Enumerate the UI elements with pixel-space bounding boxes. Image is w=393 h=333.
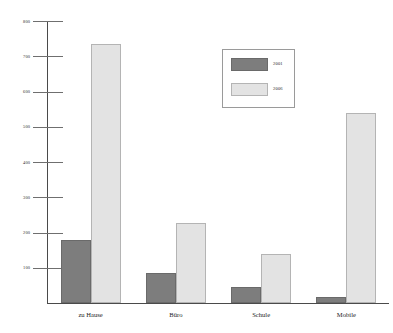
x-axis-label-schule: Schule [219, 310, 304, 319]
bar-2006-zu-hause [91, 44, 121, 303]
bar-2001-mobile [316, 297, 346, 303]
x-axis-label-mobile: Mobile [304, 310, 389, 319]
x-axis-label-büro: Büro [133, 310, 218, 319]
bar-2006-mobile [346, 113, 376, 303]
bars-layer [0, 0, 393, 333]
bar-2001-büro [146, 273, 176, 303]
legend-item-2001: 2001 [231, 58, 291, 72]
plot-area: 100200300400500600700800 zu HauseBüroSch… [0, 0, 393, 333]
x-axis-label-zu-hause: zu Hause [48, 310, 133, 319]
legend-item-2006: 2006 [231, 83, 291, 97]
legend: 2001 2006 [222, 49, 295, 108]
bar-2001-schule [231, 287, 261, 303]
legend-label-2001: 2001 [273, 61, 283, 66]
bar-chart: 100200300400500600700800 zu HauseBüroSch… [0, 0, 393, 333]
legend-label-2006: 2006 [273, 86, 283, 91]
bar-2001-zu-hause [61, 240, 91, 303]
legend-swatch-2001 [231, 58, 268, 71]
bar-2006-büro [176, 223, 206, 303]
bar-2006-schule [261, 254, 291, 303]
legend-swatch-2006 [231, 83, 268, 96]
